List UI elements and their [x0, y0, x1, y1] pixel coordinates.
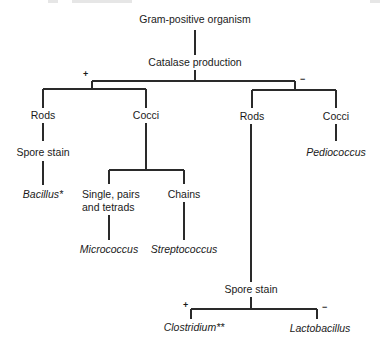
- node-single-pairs-line1: Single, pairs: [82, 188, 140, 201]
- node-rods-negative: Rods: [240, 110, 265, 123]
- node-cocci-positive: Cocci: [133, 109, 159, 122]
- node-streptococcus: Streptococcus: [151, 243, 218, 256]
- node-rods-positive: Rods: [31, 109, 56, 122]
- node-root: Gram-positive organism: [139, 13, 250, 26]
- flowchart-canvas: Gram-positive organism Catalase producti…: [0, 0, 383, 356]
- node-single-pairs-tetrads: Single, pairs and tetrads: [82, 188, 140, 214]
- node-spore-stain-positive: Spore stain: [16, 146, 69, 159]
- node-lactobacillus: Lactobacillus: [290, 322, 351, 335]
- sign-catalase-positive: +: [83, 69, 88, 79]
- node-micrococcus: Micrococcus: [80, 243, 138, 256]
- sign-catalase-negative: −: [300, 74, 305, 84]
- sign-spore-positive: +: [183, 300, 188, 310]
- node-bacillus: Bacillus*: [23, 188, 63, 201]
- sign-spore-negative: −: [322, 302, 327, 312]
- node-cocci-negative: Cocci: [323, 110, 349, 123]
- node-catalase-production: Catalase production: [148, 56, 241, 69]
- node-spore-stain-negative: Spore stain: [224, 283, 277, 296]
- node-pediococcus: Pediococcus: [306, 146, 366, 159]
- node-chains: Chains: [168, 188, 201, 201]
- node-single-pairs-line2: and tetrads: [82, 201, 140, 214]
- node-clostridium: Clostridium**: [164, 321, 225, 334]
